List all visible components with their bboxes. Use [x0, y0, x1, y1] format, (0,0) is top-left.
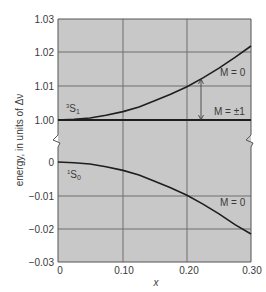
y-axis-label: energy, in units of Δν [14, 94, 25, 187]
y-tick-neg-0.02: −0.02 [29, 224, 55, 235]
y-tick-1.02: 1.02 [35, 47, 55, 58]
y-tick-1.00: 1.00 [35, 115, 55, 126]
x-tick-0.10: 0.10 [114, 265, 134, 276]
y-tick-1.03: 1.03 [35, 14, 55, 25]
energy-level-chart: 1.03 1.02 1.01 1.00 0 −0.01 −0.02 −0.03 … [0, 0, 266, 292]
x-tick-0: 0 [57, 265, 63, 276]
y-tick-0: 0 [48, 157, 54, 168]
x-tick-0.30: 0.30 [242, 265, 262, 276]
plot-area [58, 19, 251, 262]
y-tick-neg-0.01: −0.01 [29, 191, 55, 202]
label-m-pm1: M = ±1 [214, 106, 245, 117]
label-m0-lower: M = 0 [220, 197, 246, 208]
y-tick-1.01: 1.01 [35, 81, 55, 92]
label-m0-upper: M = 0 [220, 67, 246, 78]
x-axis-label: x [153, 277, 160, 288]
x-tick-0.20: 0.20 [179, 265, 199, 276]
y-tick-neg-0.03: −0.03 [29, 257, 55, 268]
